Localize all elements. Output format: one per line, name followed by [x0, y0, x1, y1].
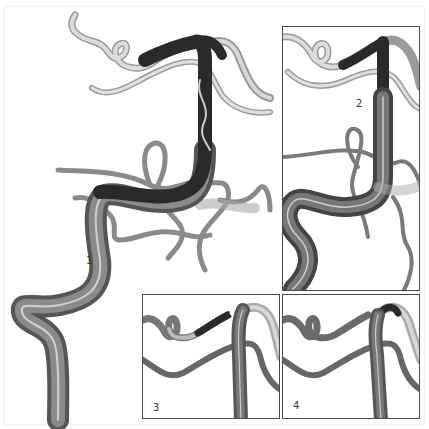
step-3-panel: 3 — [142, 294, 280, 419]
step-4-illustration — [283, 295, 420, 419]
step-2-illustration — [283, 27, 420, 291]
step-2-label: 2 — [356, 99, 362, 109]
step-2-panel: 2 — [282, 26, 420, 291]
step-1-label: 1 — [86, 256, 92, 266]
step-4-panel: 4 — [282, 294, 420, 419]
step-4-label: 4 — [293, 401, 299, 411]
step-3-label: 3 — [153, 403, 159, 413]
step-3-illustration — [143, 295, 280, 419]
